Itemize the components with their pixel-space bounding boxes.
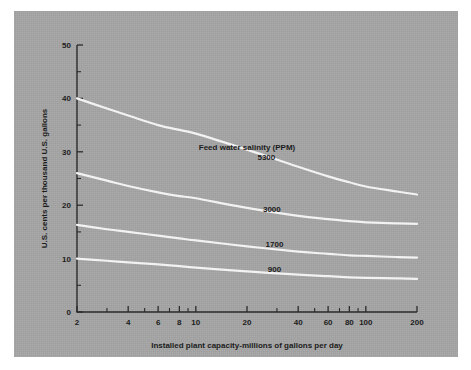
y-axis-title: U.S. cents per thousand U.S. gallons [40, 108, 49, 248]
x-tick-label: 80 [345, 318, 354, 327]
y-tick-label: 30 [62, 148, 71, 157]
y-tick-label: 0 [67, 308, 72, 317]
series-label-3000: 3000 [263, 205, 281, 214]
series-curve-900 [77, 259, 417, 279]
y-tick-label: 50 [62, 41, 71, 50]
x-tick-label: 10 [191, 318, 200, 327]
series-curve-1700 [77, 225, 417, 258]
axis-titles-group: Installed plant capacity-millions of gal… [40, 108, 343, 350]
x-tick-label: 2 [75, 318, 80, 327]
x-tick-label: 6 [156, 318, 161, 327]
series-curve-3000 [77, 173, 417, 224]
x-tick-label: 60 [324, 318, 333, 327]
series-label-5300: 5300 [257, 153, 275, 162]
series-label-1700: 1700 [266, 240, 284, 249]
x-tick-label: 20 [243, 318, 252, 327]
x-tick-label: 200 [410, 318, 424, 327]
chart-plot-area: 0102030405024681020406080100200 Feed wat… [0, 0, 471, 370]
y-tick-label: 10 [62, 255, 71, 264]
curves-group [77, 98, 417, 278]
x-tick-label: 40 [294, 318, 303, 327]
y-tick-label: 40 [62, 94, 71, 103]
legend-title: Feed water salinity (PPM) [199, 143, 296, 152]
x-tick-label: 4 [126, 318, 131, 327]
chart-figure: 0102030405024681020406080100200 Feed wat… [0, 0, 471, 370]
x-tick-label: 8 [177, 318, 182, 327]
y-tick-label: 20 [62, 201, 71, 210]
x-tick-label: 100 [359, 318, 373, 327]
series-label-900: 900 [268, 265, 282, 274]
x-axis-title: Installed plant capacity-millions of gal… [151, 341, 343, 350]
